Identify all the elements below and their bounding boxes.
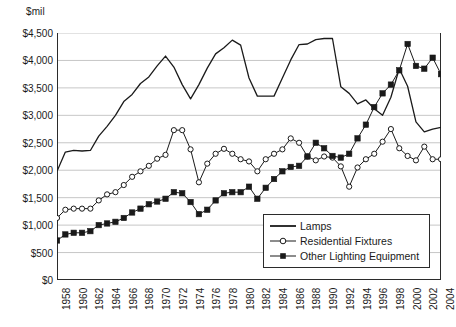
x-tick-label: 1984	[278, 288, 289, 310]
x-tick-label: 2002	[428, 288, 439, 310]
legend-item[interactable]: Lamps	[268, 218, 425, 233]
x-tick-label: 1996	[378, 288, 389, 310]
legend-label: Other Lighting Equipment	[298, 250, 419, 262]
x-tick-label: 1966	[128, 288, 139, 310]
legend-item[interactable]: Residential Fixtures	[268, 233, 425, 248]
x-tick-label: 1964	[111, 288, 122, 310]
legend-marker-open-circle-icon	[268, 235, 298, 247]
chart-legend: LampsResidential FixturesOther Lighting …	[263, 214, 430, 268]
x-tick-label: 1992	[345, 288, 356, 310]
x-tick-label: 1968	[144, 288, 155, 310]
x-tick-label: 1970	[161, 288, 172, 310]
x-tick-label: 1962	[94, 288, 105, 310]
x-tick-label: 1982	[261, 288, 272, 310]
x-tick-label: 2000	[412, 288, 423, 310]
legend-item[interactable]: Other Lighting Equipment	[268, 248, 425, 263]
x-tick-label: 1980	[245, 288, 256, 310]
legend-marker-none-icon	[268, 220, 298, 232]
x-tick-label: 1958	[61, 288, 72, 310]
legend-marker-filled-square-icon	[268, 250, 298, 262]
x-tick-label: 1972	[178, 288, 189, 310]
x-tick-label: 1960	[78, 288, 89, 310]
x-tick-label: 2004	[445, 288, 456, 310]
x-tick-label: 1994	[362, 288, 373, 310]
x-tick-label: 1978	[228, 288, 239, 310]
x-tick-label: 1990	[328, 288, 339, 310]
x-tick-label: 1998	[395, 288, 406, 310]
x-tick-label: 1988	[311, 288, 322, 310]
x-tick-label: 1976	[211, 288, 222, 310]
x-tick-label: 1986	[295, 288, 306, 310]
legend-label: Residential Fixtures	[298, 235, 392, 247]
legend-label: Lamps	[298, 220, 332, 232]
x-tick-label: 1974	[195, 288, 206, 310]
